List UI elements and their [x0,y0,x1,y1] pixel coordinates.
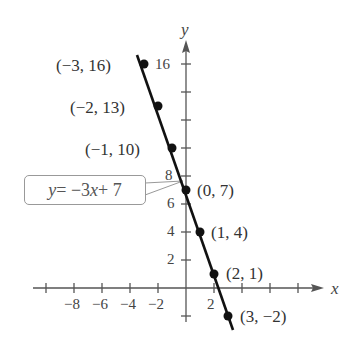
point-label: (−3, 16) [56,57,111,74]
point-label: (1, 4) [211,224,248,241]
point-label: (−2, 13) [70,99,125,116]
point-label: (−1, 10) [85,141,140,158]
x-axis [33,283,318,293]
x-tick-label: −8 [64,297,80,312]
data-point [140,60,149,69]
point-label: (3, −2) [240,308,286,325]
equation-callout: y = −3x + 7 [24,175,146,205]
data-point [154,102,163,111]
data-point [224,312,233,321]
y-tick-label: 2 [167,252,175,267]
callout-tail: + 7 [98,180,122,201]
callout-pointer [145,181,183,195]
x-tick-label: 2 [207,297,215,312]
data-point [210,270,219,279]
point-label: (2, 1) [226,265,263,282]
y-tick-label: 4 [167,224,175,239]
y-axis-label: y [181,20,189,40]
data-point [196,228,205,237]
x-tick-label: −2 [148,297,164,312]
y-tick-label: 6 [167,196,175,211]
x-tick-label: −4 [120,297,136,312]
point-label: (0, 7) [197,182,234,199]
data-point [182,186,191,195]
y-tick-label: 16 [155,57,170,72]
x-tick-label: −6 [92,297,108,312]
data-point [168,144,177,153]
chart-canvas [0,0,361,346]
callout-y: y [48,180,56,201]
x-axis-label: x [331,279,339,299]
callout-middle: = −3 [56,180,90,201]
y-tick-label: 8 [165,168,173,183]
callout-x: x [90,180,98,201]
